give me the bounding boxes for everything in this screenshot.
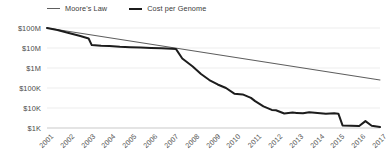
chart-container: Moore's Law Cost per Genome $100M$10M$1M…: [0, 0, 387, 163]
x-axis-tick-labels: 2001200220032004200520062007200820092010…: [0, 0, 387, 163]
